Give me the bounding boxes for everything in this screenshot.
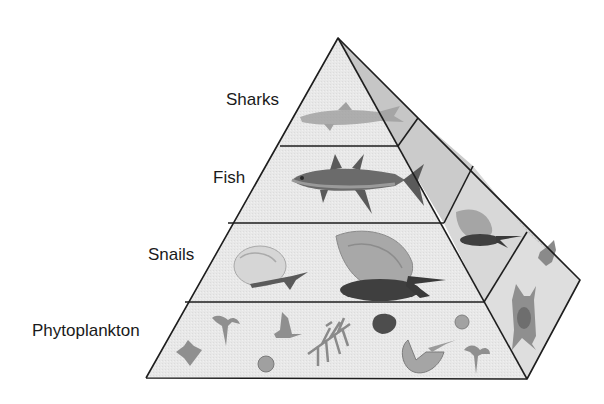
round-cell-icon-2 — [455, 315, 469, 329]
level-label-snails: Snails — [148, 246, 194, 263]
pyramid-graphic — [0, 0, 604, 404]
round-cell-icon — [258, 356, 274, 372]
level-label-sharks: Sharks — [226, 91, 279, 108]
level-label-phytoplankton: Phytoplankton — [32, 322, 140, 339]
level-label-fish: Fish — [213, 169, 245, 186]
food-pyramid-diagram: Sharks Fish Snails Phytoplankton — [0, 0, 604, 404]
